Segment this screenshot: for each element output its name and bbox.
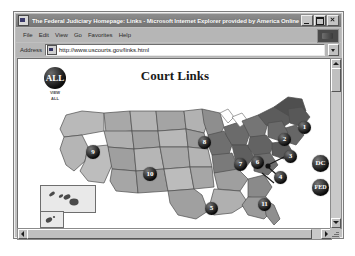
- hawaii-inset[interactable]: [40, 185, 96, 213]
- horizontal-scrollbar[interactable]: [17, 228, 332, 240]
- scroll-down-arrow[interactable]: [331, 218, 341, 228]
- menu-item-view[interactable]: View: [55, 32, 68, 38]
- web-page: Court Links ALL VIEW ALL: [18, 59, 330, 228]
- menu-item-file[interactable]: File: [23, 32, 33, 38]
- address-label: Address: [20, 47, 42, 53]
- menu-item-edit[interactable]: Edit: [39, 32, 49, 38]
- circuit-5-label: 5: [210, 204, 214, 212]
- circuit-dc-marker[interactable]: DC: [312, 155, 329, 172]
- menu-item-favorites[interactable]: Favorites: [88, 32, 113, 38]
- circuit-10[interactable]: 10: [143, 167, 157, 181]
- circuit-1-label: 1: [303, 123, 307, 131]
- minimize-button[interactable]: [301, 15, 313, 26]
- vertical-scrollbar[interactable]: [330, 58, 342, 229]
- circuit-6-label: 6: [256, 158, 260, 166]
- menu-item-help[interactable]: Help: [119, 32, 131, 38]
- chevron-down-icon[interactable]: [328, 44, 339, 56]
- alaska-inset[interactable]: [40, 211, 64, 228]
- circuit-9-label: 9: [91, 148, 95, 156]
- browser-window: The Federal Judiciary Homepage: Links - …: [13, 11, 344, 239]
- window-title: The Federal Judiciary Homepage: Links - …: [32, 18, 301, 24]
- circuit-8-label: 8: [203, 138, 207, 146]
- circuit-7[interactable]: 7: [234, 158, 247, 171]
- view-all-badge[interactable]: ALL: [44, 67, 66, 89]
- horizontal-scroll-thumb[interactable]: [27, 229, 312, 239]
- title-bar[interactable]: The Federal Judiciary Homepage: Links - …: [16, 14, 341, 27]
- circuit-2-label: 2: [283, 135, 287, 143]
- maximize-button[interactable]: [314, 15, 326, 26]
- circuit-fed-label: FED: [315, 184, 327, 190]
- ie-logo-button[interactable]: [317, 29, 339, 43]
- circuit-11[interactable]: 11: [258, 198, 271, 211]
- circuit-7-label: 7: [239, 160, 243, 168]
- circuit-3[interactable]: 3: [284, 150, 297, 163]
- circuit-10-label: 10: [147, 170, 154, 178]
- page-title: Court Links: [100, 68, 250, 84]
- address-url-text: http://www.uscourts.gov/links.html: [59, 47, 149, 53]
- document-icon: [47, 45, 57, 55]
- circuit-5[interactable]: 5: [205, 202, 218, 215]
- window-controls: [301, 15, 339, 26]
- circuit-8[interactable]: 8: [198, 136, 211, 149]
- circuit-11-label: 11: [261, 200, 268, 208]
- circuit-6[interactable]: 6: [251, 156, 264, 169]
- address-input[interactable]: http://www.uscourts.gov/links.html: [45, 44, 325, 56]
- circuit-9[interactable]: 9: [86, 145, 100, 159]
- circuit-1[interactable]: 1: [298, 121, 311, 134]
- menu-bar: File Edit View Go Favorites Help: [16, 28, 341, 42]
- vertical-scroll-thumb[interactable]: [331, 68, 341, 92]
- resize-grip[interactable]: [330, 228, 340, 238]
- page-viewport: Court Links ALL VIEW ALL: [17, 58, 331, 229]
- circuit-2[interactable]: 2: [278, 133, 291, 146]
- address-bar: Address http://www.uscourts.gov/links.ht…: [16, 43, 341, 57]
- hawaii-inset-svg: [41, 186, 95, 212]
- circuit-3-label: 3: [289, 152, 293, 160]
- circuit-fed-marker[interactable]: FED: [312, 179, 329, 196]
- alaska-inset-svg: [41, 212, 63, 227]
- circuit-4-label: 4: [279, 173, 283, 181]
- circuit-4[interactable]: 4: [274, 171, 287, 184]
- ie-icon: [18, 15, 29, 26]
- close-button[interactable]: [327, 15, 339, 26]
- circuit-dc-label: DC: [315, 159, 325, 167]
- menu-item-go[interactable]: Go: [74, 32, 82, 38]
- screenshot-root: The Federal Judiciary Homepage: Links - …: [0, 0, 355, 256]
